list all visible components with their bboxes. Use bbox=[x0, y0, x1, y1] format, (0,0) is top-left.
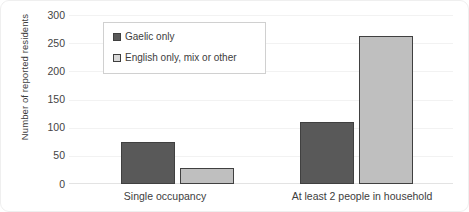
legend-item-gaelic-only[interactable]: Gaelic only bbox=[113, 31, 174, 42]
x-tick-label-multi-occupancy: At least 2 people in household bbox=[267, 190, 457, 202]
bar-english-other[interactable] bbox=[359, 36, 413, 184]
legend-label: Gaelic only bbox=[125, 31, 174, 42]
chart-legend: Gaelic only English only, mix or other bbox=[103, 22, 266, 74]
legend-item-english-other[interactable]: English only, mix or other bbox=[113, 52, 237, 63]
y-tick-label: 150 bbox=[31, 94, 65, 104]
y-tick-label: 0 bbox=[31, 179, 65, 189]
bar-gaelic-only[interactable] bbox=[121, 142, 175, 184]
y-tick-label: 100 bbox=[31, 122, 65, 132]
y-tick-label: 300 bbox=[31, 10, 65, 20]
y-axis-title: Number of reported residents bbox=[19, 7, 31, 147]
y-tick-label: 250 bbox=[31, 38, 65, 48]
bar-group-multi-occupancy bbox=[279, 15, 439, 184]
y-tick-label: 50 bbox=[31, 150, 65, 160]
legend-swatch-icon bbox=[113, 33, 121, 41]
legend-label: English only, mix or other bbox=[125, 52, 237, 63]
chart-container: Number of reported residents 300 250 200… bbox=[0, 0, 469, 212]
y-tick-label: 200 bbox=[31, 66, 65, 76]
bar-english-other[interactable] bbox=[180, 168, 234, 184]
bar-gaelic-only[interactable] bbox=[300, 122, 354, 184]
x-tick-label-single-occupancy: Single occupancy bbox=[85, 190, 245, 202]
legend-swatch-icon bbox=[113, 54, 121, 62]
